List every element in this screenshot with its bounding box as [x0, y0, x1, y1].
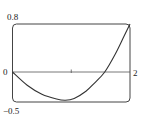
y-tick-label-bottom: −0.5 — [3, 106, 20, 116]
x-tick-label-left: 0 — [3, 67, 8, 77]
function-plot: 0.8 −0.5 0 2 — [0, 0, 144, 126]
plot-frame — [13, 24, 131, 102]
function-curve — [13, 24, 131, 100]
x-tick-label-right: 2 — [133, 68, 138, 78]
y-tick-label-top: 0.8 — [7, 12, 19, 22]
